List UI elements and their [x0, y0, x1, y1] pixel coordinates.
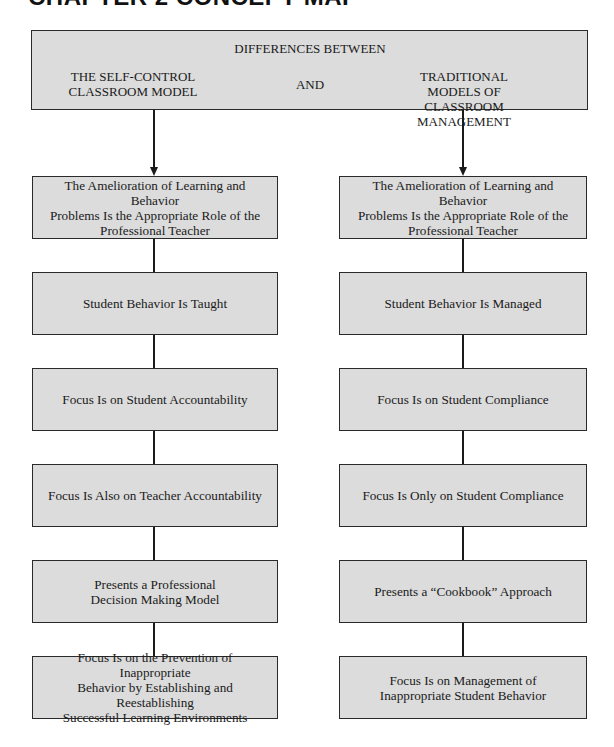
left-connector-3	[153, 431, 155, 464]
left-box-3-label: Focus Is on Student Accountability	[62, 392, 247, 407]
comparison-header-box: DIFFERENCES BETWEEN THE SELF-CONTROL CLA…	[31, 30, 588, 110]
left-box-1-label: The Amelioration of Learning and Behavio…	[41, 178, 269, 238]
left-box-5-label: Presents a Professional Decision Making …	[91, 577, 220, 607]
right-connector-1	[462, 239, 464, 272]
right-box-6: Focus Is on Management of Inappropriate …	[339, 656, 587, 719]
header-connector-and: AND	[296, 77, 324, 92]
left-box-5: Presents a Professional Decision Making …	[32, 560, 278, 623]
left-box-4: Focus Is Also on Teacher Accountability	[32, 464, 278, 527]
left-box-6-label: Focus Is on the Prevention of Inappropri…	[41, 650, 269, 725]
right-connector-5	[462, 623, 464, 656]
right-connector-2	[462, 335, 464, 368]
left-connector-4	[153, 527, 155, 560]
right-box-4: Focus Is Only on Student Compliance	[339, 464, 587, 527]
right-connector-4	[462, 527, 464, 560]
left-box-6: Focus Is on the Prevention of Inappropri…	[32, 656, 278, 719]
right-arrowhead-icon	[459, 167, 467, 176]
left-box-4-label: Focus Is Also on Teacher Accountability	[48, 488, 262, 503]
right-box-5-label: Presents a “Cookbook” Approach	[374, 584, 552, 599]
header-title: DIFFERENCES BETWEEN	[234, 41, 385, 56]
header-right-label: TRADITIONAL MODELS OF CLASSROOM MANAGEME…	[403, 69, 526, 129]
right-box-1-label: The Amelioration of Learning and Behavio…	[348, 178, 578, 238]
chapter-heading: CHAPTER 2 CONCEPT MAP	[28, 0, 359, 11]
right-box-2-label: Student Behavior Is Managed	[384, 296, 541, 311]
left-box-2: Student Behavior Is Taught	[32, 272, 278, 335]
right-box-5: Presents a “Cookbook” Approach	[339, 560, 587, 623]
right-box-3-label: Focus Is on Student Compliance	[377, 392, 548, 407]
header-left-label: THE SELF-CONTROL CLASSROOM MODEL	[69, 69, 198, 99]
left-box-1: The Amelioration of Learning and Behavio…	[32, 176, 278, 239]
left-connector-2	[153, 335, 155, 368]
left-box-2-label: Student Behavior Is Taught	[83, 296, 227, 311]
left-arrow-line	[153, 110, 155, 168]
right-box-6-label: Focus Is on Management of Inappropriate …	[380, 673, 546, 703]
right-connector-3	[462, 431, 464, 464]
left-box-3: Focus Is on Student Accountability	[32, 368, 278, 431]
right-box-3: Focus Is on Student Compliance	[339, 368, 587, 431]
right-box-2: Student Behavior Is Managed	[339, 272, 587, 335]
left-arrowhead-icon	[150, 167, 158, 176]
right-arrow-line	[462, 110, 464, 168]
left-connector-1	[153, 239, 155, 272]
right-box-1: The Amelioration of Learning and Behavio…	[339, 176, 587, 239]
right-box-4-label: Focus Is Only on Student Compliance	[362, 488, 563, 503]
